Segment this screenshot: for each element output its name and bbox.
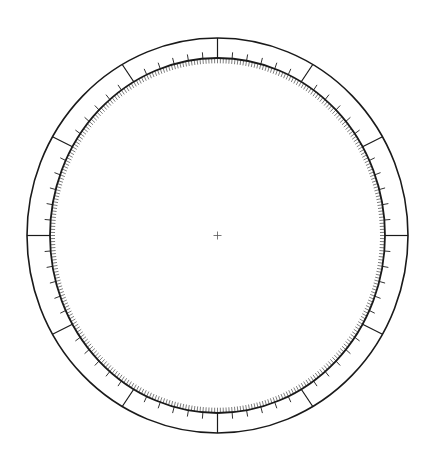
intermediate-tick: [54, 173, 60, 175]
intermediate-tick: [187, 54, 188, 60]
intermediate-tick: [232, 412, 233, 418]
intermediate-tick: [288, 69, 291, 75]
intermediate-tick: [375, 296, 381, 298]
intermediate-tick: [106, 95, 110, 100]
intermediate-tick: [54, 296, 60, 298]
major-tick: [363, 324, 383, 334]
center-crosshair-icon: [214, 232, 222, 240]
intermediate-tick: [106, 371, 110, 376]
intermediate-tick: [336, 361, 340, 366]
intermediate-tick: [325, 371, 329, 376]
intermediate-tick: [336, 105, 340, 110]
intermediate-tick: [202, 52, 203, 58]
major-tick: [301, 389, 313, 406]
intermediate-tick: [247, 410, 248, 416]
dial-graphic: [0, 0, 437, 465]
intermediate-tick: [375, 173, 381, 175]
intermediate-tick: [261, 407, 263, 413]
intermediate-tick: [95, 361, 99, 366]
intermediate-tick: [325, 95, 329, 100]
major-tick: [122, 64, 134, 81]
intermediate-tick: [144, 69, 147, 75]
major-tick: [122, 389, 134, 406]
intermediate-tick: [173, 58, 175, 64]
intermediate-tick: [158, 63, 160, 69]
protractor-dial: [0, 0, 437, 465]
major-tick: [363, 137, 383, 147]
intermediate-tick: [95, 105, 99, 110]
major-tick: [53, 137, 73, 147]
intermediate-tick: [158, 402, 160, 408]
major-tick: [53, 324, 73, 334]
intermediate-tick: [275, 402, 277, 408]
intermediate-tick: [144, 396, 147, 402]
intermediate-tick: [247, 54, 248, 60]
intermediate-tick: [288, 396, 291, 402]
intermediate-tick: [202, 412, 203, 418]
intermediate-tick: [261, 58, 263, 64]
intermediate-tick: [275, 63, 277, 69]
intermediate-tick: [187, 410, 188, 416]
intermediate-tick: [173, 407, 175, 413]
intermediate-tick: [232, 52, 233, 58]
major-tick: [301, 64, 313, 81]
